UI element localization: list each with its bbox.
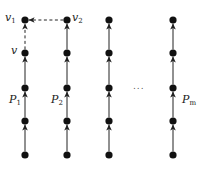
node-P3-3 [105, 117, 112, 124]
label-v2: v2 [72, 12, 83, 25]
node-Pm-2 [169, 84, 176, 91]
node-P2-2 [63, 84, 70, 91]
node-Pm-4 [169, 151, 176, 158]
node-P3-4 [105, 151, 112, 158]
label-v: v [11, 45, 17, 56]
arrowhead-icon [22, 24, 28, 30]
ellipsis: ... [133, 82, 145, 91]
node-P3-1 [105, 49, 112, 56]
node-Pm-1 [169, 49, 176, 56]
node-P2-0 [63, 16, 70, 23]
node-Pm-0 [169, 16, 176, 23]
node-P1-4 [21, 151, 28, 158]
node-P1-1 [21, 49, 28, 56]
label-v1: v1 [5, 12, 16, 25]
node-P2-4 [63, 151, 70, 158]
path-diagram [0, 0, 199, 169]
label-p2: P2 [51, 94, 63, 107]
node-Pm-3 [169, 117, 176, 124]
node-P1-0 [21, 16, 28, 23]
edges [22, 17, 176, 151]
node-P3-2 [105, 84, 112, 91]
label-p1: P1 [9, 94, 21, 107]
label-pm: Pm [182, 94, 196, 107]
node-P1-3 [21, 117, 28, 124]
node-P2-3 [63, 117, 70, 124]
nodes [21, 16, 176, 158]
node-P3-0 [105, 16, 112, 23]
node-P1-2 [21, 84, 28, 91]
node-P2-1 [63, 49, 70, 56]
